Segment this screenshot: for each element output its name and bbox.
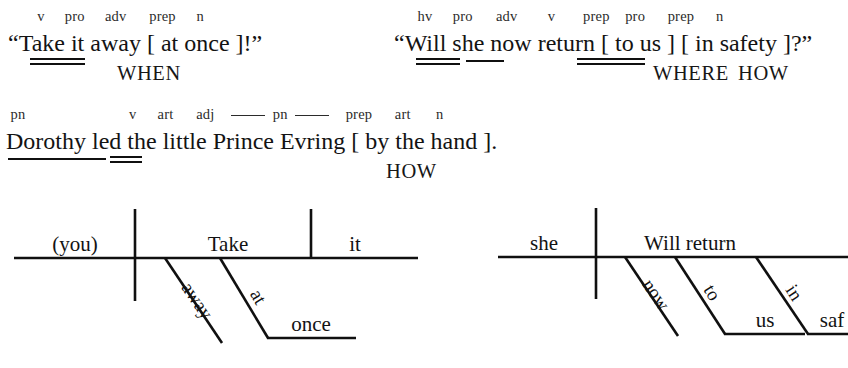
sentence-1-question-word: WHEN bbox=[117, 62, 181, 85]
sentence-2-question-word-how: HOW bbox=[738, 62, 789, 85]
pos-label: prep bbox=[137, 8, 187, 25]
pos-label: art bbox=[385, 106, 421, 123]
pos-label: n bbox=[425, 106, 455, 123]
diagram-2-verb: Will return bbox=[644, 231, 736, 255]
sentence-3-question-word: HOW bbox=[386, 160, 437, 183]
diagram-2-modifier-us: us bbox=[756, 308, 775, 332]
sentence-3-pos-row: pn v art adj pn prep art n bbox=[8, 106, 455, 123]
verb-underline-lower bbox=[110, 161, 142, 163]
sentence-1-text: “Take it away [ at once ]!” bbox=[8, 30, 262, 57]
pos-label: n bbox=[191, 8, 209, 25]
sentence-2-question-word-where: WHERE bbox=[653, 62, 729, 85]
helping-verb-underline-upper bbox=[416, 58, 460, 60]
main-verb-underline-upper bbox=[577, 58, 645, 60]
main-verb-underline-lower bbox=[577, 63, 645, 65]
pos-label: adv bbox=[98, 8, 134, 25]
pos-label: prep bbox=[337, 106, 381, 123]
pos-label: adj bbox=[187, 106, 223, 123]
pos-label: art bbox=[147, 106, 183, 123]
pos-label: pro bbox=[442, 8, 484, 25]
pos-label: prep bbox=[577, 8, 615, 25]
sentence-3-text: Dorothy led the little Prince Evring [ b… bbox=[6, 128, 497, 155]
diagram-2-subject: she bbox=[530, 231, 558, 255]
diagram-1-modifier-at: at bbox=[246, 285, 271, 308]
pos-label-proper-noun-spanning: pn bbox=[267, 106, 293, 123]
pos-label: pro bbox=[56, 8, 94, 25]
helping-verb-underline-lower bbox=[416, 63, 460, 65]
worksheet-page: v pro adv prep n “Take it away [ at once… bbox=[0, 0, 848, 368]
sentence-2-text: “Will she now return [ to us ] [ in safe… bbox=[394, 30, 812, 57]
pos-label: prep bbox=[655, 8, 707, 25]
verb-underline-lower bbox=[30, 63, 85, 65]
diagram-2-modifier-safety-clipped: saf bbox=[820, 308, 845, 332]
pos-label: hv bbox=[412, 8, 438, 25]
pos-label: adv bbox=[488, 8, 526, 25]
diagram-1-subject: (you) bbox=[52, 232, 98, 256]
diagram-2-will-she-now-return: she Will return now to us in saf bbox=[460, 200, 848, 368]
pos-label: n bbox=[711, 8, 729, 25]
sentence-2-pos-row: hv pro adv v prep pro prep n bbox=[412, 8, 729, 25]
subject-underline bbox=[8, 158, 106, 160]
pos-label: pn bbox=[8, 106, 28, 123]
diagram-1-direct-object: it bbox=[349, 232, 361, 256]
pos-label: v bbox=[30, 8, 52, 25]
diagram-1-modifier-away: away bbox=[177, 278, 217, 323]
diagram-2-modifier-now: now bbox=[639, 275, 675, 314]
subject-underline bbox=[466, 60, 504, 62]
verb-underline-upper bbox=[30, 58, 85, 60]
diagram-1-verb: Take bbox=[208, 232, 249, 256]
sentence-1-pos-row: v pro adv prep n bbox=[30, 8, 209, 25]
verb-underline-upper bbox=[110, 156, 142, 158]
pos-label: v bbox=[529, 8, 573, 25]
diagram-1-modifier-once: once bbox=[291, 312, 331, 336]
diagram-1-take-it-away-at-once: (you) Take it away at once bbox=[0, 200, 430, 368]
pos-label: pro bbox=[619, 8, 651, 25]
pos-label: v bbox=[122, 106, 144, 123]
